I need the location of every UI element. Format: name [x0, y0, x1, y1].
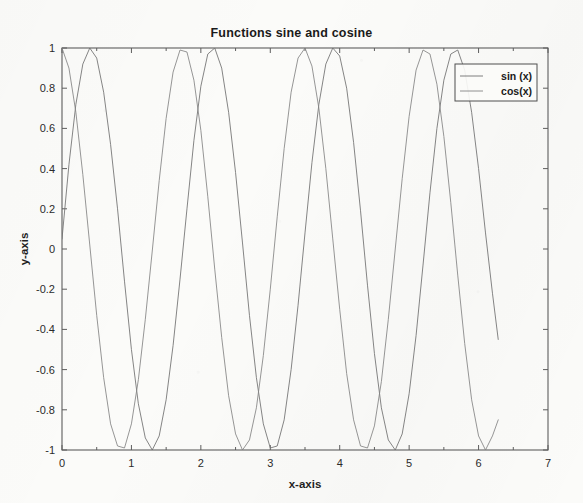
x-tick-label: 5: [406, 457, 412, 469]
x-tick-label: 2: [198, 457, 204, 469]
x-tick-label: 3: [267, 457, 273, 469]
y-tick-label: 0: [49, 243, 55, 255]
plot-canvas: 01234567-1-0.8-0.6-0.4-0.200.20.40.60.81…: [0, 0, 583, 503]
y-tick-label: -0.4: [36, 323, 55, 335]
series-line-0: [62, 48, 498, 450]
x-tick-label: 0: [59, 457, 65, 469]
x-tick-label: 1: [128, 457, 134, 469]
x-tick-label: 6: [476, 457, 482, 469]
legend-label-1: cos(x): [501, 85, 532, 97]
y-tick-label: 0.6: [40, 122, 55, 134]
y-axis-title: y-axis: [18, 233, 30, 266]
y-tick-label: 0.8: [40, 82, 55, 94]
y-tick-label: 1: [49, 42, 55, 54]
x-tick-label: 4: [337, 457, 343, 469]
y-tick-label: -0.2: [36, 283, 55, 295]
x-axis-title: x-axis: [289, 478, 322, 490]
x-tick-label: 7: [545, 457, 551, 469]
y-tick-label: -1: [45, 444, 55, 456]
y-tick-label: -0.6: [36, 364, 55, 376]
legend-label-0: sin (x): [501, 70, 532, 82]
chart-page: Functions sine and cosine 01234567-1-0.8…: [0, 0, 583, 503]
plot-frame: [62, 48, 548, 450]
y-tick-label: -0.8: [36, 404, 55, 416]
y-tick-label: 0.2: [40, 203, 55, 215]
y-tick-label: 0.4: [40, 163, 55, 175]
series-line-1: [62, 48, 498, 450]
